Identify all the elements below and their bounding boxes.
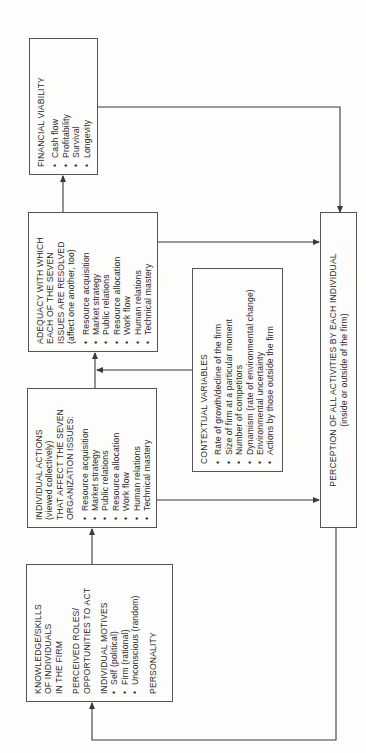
list-item: Self (political): [109, 572, 119, 694]
list-item: Cash flow: [50, 46, 60, 167]
list-item: Dynamism (rate of environmental change): [245, 276, 255, 464]
list-item: Human relations: [132, 396, 142, 520]
arrow-financial-to-perception: [98, 107, 340, 212]
list-item: Unconscious (random): [130, 572, 140, 694]
list-item: Longevity: [82, 46, 92, 167]
knowledge-skills-box: KNOWLEDGE/SKILLS OF INDIVIDUALS IN THE F…: [26, 564, 173, 702]
personality-label: PERSONALITY: [148, 572, 158, 694]
adequacy-title: ADEQUACY WITH WHICH EACH OF THE SEVEN IS…: [35, 220, 77, 344]
contextual-variables-box: CONTEXTUAL VARIABLES Rate of growth/decl…: [192, 268, 283, 472]
list-item: Firm (rational): [120, 572, 130, 694]
perception-subtitle: (inside or outside of the firm): [339, 313, 349, 427]
list-item: Public relations: [100, 396, 110, 520]
list-item: Survival: [71, 46, 81, 167]
knowledge-title: KNOWLEDGE/SKILLS OF INDIVIDUALS IN THE F…: [33, 572, 64, 694]
list-item: Work flow: [121, 396, 131, 520]
list-item: Resource allocation: [111, 396, 121, 520]
financial-viability-box: FINANCIAL VIABILITY Cash flow Profitabil…: [29, 38, 98, 175]
list-item: Market strategy: [90, 396, 100, 520]
financial-list: Cash flow Profitability Survival Longevi…: [50, 46, 92, 167]
list-item: Environmental uncertainty: [255, 276, 265, 464]
individual-actions-title: INDIVIDUAL ACTIONS (viewed collectively)…: [34, 396, 76, 520]
diagram-canvas: KNOWLEDGE/SKILLS OF INDIVIDUALS IN THE F…: [0, 0, 366, 753]
adequacy-list: Resource acquisition Market strategy Pub…: [81, 220, 154, 344]
list-item: Actions by those outside the firm: [265, 276, 275, 464]
list-item: Number of competitors: [234, 276, 244, 464]
individual-actions-list: Resource acquisition Market strategy Pub…: [80, 396, 153, 520]
list-item: Resource acquisition: [80, 396, 90, 520]
list-item: Human relations: [133, 220, 143, 344]
contextual-list: Rate of growth/decline of the firm Size …: [213, 276, 275, 464]
list-item: Rate of growth/decline of the firm: [213, 276, 223, 464]
list-item: Public relations: [101, 220, 111, 344]
list-item: Resource acquisition: [81, 220, 91, 344]
financial-title: FINANCIAL VIABILITY: [36, 46, 46, 167]
list-item: Work flow: [122, 220, 132, 344]
perception-box: PERCEPTION OF ALL ACTIVITIES BY EACH IND…: [320, 212, 357, 528]
list-item: Technical mastery: [143, 220, 153, 344]
contextual-title: CONTEXTUAL VARIABLES: [199, 276, 209, 464]
individual-actions-box: INDIVIDUAL ACTIONS (viewed collectively)…: [27, 388, 157, 528]
list-item: Market strategy: [91, 220, 101, 344]
adequacy-box: ADEQUACY WITH WHICH EACH OF THE SEVEN IS…: [28, 212, 158, 352]
list-item: Size of firm at a particular moment: [224, 276, 234, 464]
perceived-roles-title: PERCEIVED ROLES/ OPPORTUNITIES TO ACT: [71, 572, 92, 694]
list-item: Resource allocation: [112, 220, 122, 344]
motives-list: Self (political) Firm (rational) Unconsc…: [109, 572, 140, 694]
list-item: Technical mastery: [142, 396, 152, 520]
perception-title: PERCEPTION OF ALL ACTIVITIES BY EACH IND…: [328, 253, 338, 486]
individual-motives-title: INDIVIDUAL MOTIVES: [99, 572, 109, 694]
list-item: Profitability: [61, 46, 71, 167]
